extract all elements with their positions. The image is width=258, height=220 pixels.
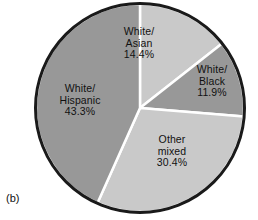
pie-chart-figure: White/ Asian 14.4% White/ Black 11.9% Ot… <box>0 0 258 220</box>
slice-label-other-mixed: Other mixed 30.4% <box>140 134 204 169</box>
figure-caption: (b) <box>6 192 19 204</box>
slice-label-white-black: White/ Black 11.9% <box>181 64 243 99</box>
slice-value: 14.4% <box>107 49 171 61</box>
slice-value: 11.9% <box>181 87 243 99</box>
slice-label-white-asian: White/ Asian 14.4% <box>107 26 171 61</box>
slice-label-white-hispanic: White/ Hispanic 43.3% <box>43 83 117 118</box>
slice-label-line1: Other <box>140 134 204 146</box>
slice-value: 43.3% <box>43 106 117 118</box>
slice-label-line1: White/ <box>43 83 117 95</box>
slice-label-line1: White/ <box>107 26 171 38</box>
slice-value: 30.4% <box>140 157 204 169</box>
slice-label-line1: White/ <box>181 64 243 76</box>
